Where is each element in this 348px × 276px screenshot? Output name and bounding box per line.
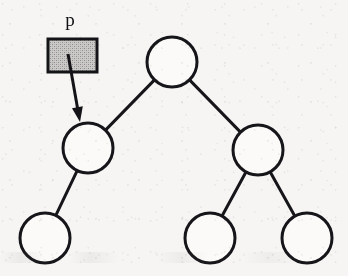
leaf-right-node[interactable]: [282, 213, 332, 263]
pointer-arrow-head-icon: [72, 106, 83, 122]
edge-right-child-to-leaf-middle: [221, 171, 246, 217]
pointer-variable-box[interactable]: [48, 39, 97, 72]
pointer-variable-label: p: [65, 9, 75, 30]
leaf-left-node[interactable]: [20, 213, 70, 263]
edge-right-child-to-leaf-right: [270, 171, 296, 217]
edge-root-to-left-child: [105, 79, 155, 131]
leaf-middle-node[interactable]: [185, 213, 235, 263]
root-node[interactable]: [147, 37, 197, 87]
edge-left-child-to-leaf-left: [55, 170, 77, 217]
right-child-node[interactable]: [233, 125, 283, 175]
tree-diagram: p: [0, 0, 348, 276]
pointer-variable-group: p: [48, 9, 97, 122]
figure-canvas: p: [0, 0, 348, 276]
left-child-node[interactable]: [63, 123, 113, 173]
edge-root-to-right-child: [189, 79, 241, 133]
